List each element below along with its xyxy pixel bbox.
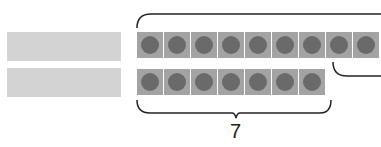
top-bracket bbox=[137, 14, 381, 28]
difference-bracket bbox=[333, 62, 381, 76]
brackets bbox=[0, 0, 381, 147]
bottom-bracket bbox=[137, 100, 331, 118]
bottom-bracket-label: 7 bbox=[230, 120, 241, 143]
